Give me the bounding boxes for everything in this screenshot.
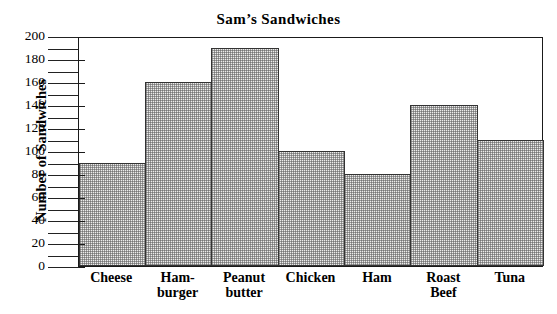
y-axis-minor-rule	[48, 49, 79, 50]
x-axis-category-label: Cheese	[78, 270, 144, 285]
y-axis-tick	[79, 244, 85, 245]
y-axis-minor-rule	[48, 95, 79, 96]
y-axis-tick	[79, 60, 85, 61]
bar	[410, 105, 478, 266]
x-axis-category-label: Ham	[344, 270, 410, 285]
y-axis-tick-label: 140	[5, 98, 45, 112]
y-axis-minor-rule	[48, 72, 79, 73]
bar-chart: Sam’s Sandwiches Number of Sandwiches 02…	[0, 0, 557, 314]
y-axis-tick	[79, 83, 85, 84]
y-axis-tick-rule	[48, 175, 79, 176]
y-axis-tick-rule	[48, 267, 79, 268]
y-axis-tick-label: 0	[5, 259, 45, 273]
y-axis-tick-label: 60	[5, 190, 45, 204]
y-axis-tick	[79, 267, 85, 268]
y-axis-minor-rule	[48, 141, 79, 142]
x-axis-category-label: Chicken	[277, 270, 343, 285]
y-axis-tick-rule	[48, 221, 79, 222]
y-axis-minor-rule	[48, 256, 79, 257]
y-axis-tick	[79, 175, 85, 176]
y-axis-tick-rule	[48, 244, 79, 245]
y-axis-tick	[79, 221, 85, 222]
y-axis-minor-rule	[48, 187, 79, 188]
x-axis-category-label: Ham- burger	[144, 270, 210, 300]
y-axis-tick-rule	[48, 37, 79, 38]
y-axis-tick-rule	[48, 198, 79, 199]
bar	[344, 174, 412, 266]
bar	[79, 163, 146, 267]
plot-area	[78, 37, 543, 267]
x-axis-category-label: Tuna	[477, 270, 543, 285]
bar	[211, 48, 279, 267]
y-axis-tick-label: 40	[5, 213, 45, 227]
chart-title: Sam’s Sandwiches	[0, 11, 557, 28]
y-axis-minor-rule	[48, 164, 79, 165]
y-axis-tick-rule	[48, 60, 79, 61]
y-axis-tick-rule	[48, 152, 79, 153]
y-axis-tick-label: 180	[5, 52, 45, 66]
bar	[477, 140, 544, 267]
y-axis-scale	[48, 37, 79, 267]
y-axis-tick	[79, 152, 85, 153]
y-axis-tick-label: 80	[5, 167, 45, 181]
y-axis-tick-label: 160	[5, 75, 45, 89]
y-axis-tick-label: 100	[5, 144, 45, 158]
y-axis-tick-rule	[48, 83, 79, 84]
x-axis-category-label: Roast Beef	[410, 270, 476, 300]
y-axis-tick	[79, 106, 85, 107]
bar	[145, 82, 213, 266]
y-axis-tick-rule	[48, 106, 79, 107]
bar	[278, 151, 346, 266]
y-axis-tick-rule	[48, 129, 79, 130]
y-axis-tick-label: 200	[5, 29, 45, 43]
y-axis-minor-rule	[48, 210, 79, 211]
y-axis-tick-label: 120	[5, 121, 45, 135]
y-axis-minor-rule	[48, 233, 79, 234]
y-axis-minor-rule	[48, 118, 79, 119]
y-axis-tick-label: 20	[5, 236, 45, 250]
x-axis-category-label: Peanut butter	[211, 270, 277, 300]
y-axis-tick	[79, 129, 85, 130]
y-axis-tick	[79, 198, 85, 199]
